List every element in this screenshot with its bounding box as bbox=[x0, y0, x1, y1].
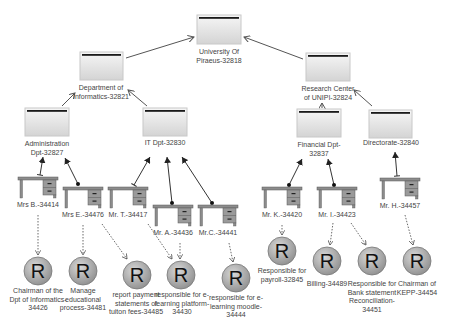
role-icon[interactable]: R bbox=[313, 247, 341, 275]
role-icon[interactable]: R bbox=[24, 257, 52, 285]
role-icon[interactable]: R bbox=[268, 237, 296, 265]
unit-label-directorate: Directorate-32840 bbox=[351, 139, 431, 148]
person-label-mr-t: Mr. T.-34417 bbox=[92, 211, 164, 220]
role-icon[interactable]: R bbox=[69, 257, 97, 285]
desk-icon[interactable] bbox=[18, 177, 58, 198]
svg-text:R: R bbox=[31, 260, 45, 282]
unit-directorate[interactable] bbox=[369, 110, 412, 138]
svg-text:R: R bbox=[229, 267, 243, 289]
svg-text:R: R bbox=[365, 250, 379, 272]
unit-label-dept-informatics: Department of Informatics-32821 bbox=[61, 84, 141, 101]
unit-label-it-dpt: IT Dpt-32830 bbox=[125, 139, 205, 148]
person-label-mr-h: Mr. H.-34457 bbox=[364, 202, 436, 211]
role-label-chairman-kepp: Chairman of KEPP-34454 bbox=[389, 280, 445, 297]
svg-text:R: R bbox=[130, 264, 144, 286]
unit-it-dpt[interactable] bbox=[143, 108, 187, 136]
svg-text:R: R bbox=[76, 260, 90, 282]
svg-text:R: R bbox=[174, 264, 188, 286]
person-label-mrs-b: Mrs B.-34414 bbox=[2, 201, 74, 210]
role-icon[interactable]: R bbox=[123, 261, 151, 289]
role-icon[interactable]: R bbox=[222, 264, 250, 292]
role-label-elearning-moodle: responsible for e- learning moodle- 3444… bbox=[202, 294, 270, 320]
svg-text:R: R bbox=[275, 240, 289, 262]
unit-dept-informatics[interactable] bbox=[80, 52, 123, 80]
unit-research-center[interactable] bbox=[306, 53, 350, 81]
role-icon[interactable]: R bbox=[167, 261, 195, 289]
unit-label-research-center: Research Center of UNIPI-32824 bbox=[288, 85, 368, 102]
svg-text:R: R bbox=[320, 250, 334, 272]
desk-icon[interactable] bbox=[198, 205, 238, 226]
unit-financial[interactable] bbox=[297, 109, 341, 137]
person-label-mr-c: Mr.C.-34441 bbox=[182, 229, 254, 238]
role-icon[interactable]: R bbox=[403, 247, 431, 275]
desk-icon[interactable] bbox=[108, 187, 148, 208]
unit-label-financial: Financial Dpt- 32837 bbox=[279, 141, 359, 158]
unit-label-administration: Administration Dpt-32827 bbox=[7, 140, 87, 157]
svg-text:R: R bbox=[410, 250, 424, 272]
unit-administration[interactable] bbox=[25, 108, 69, 136]
desk-icon[interactable] bbox=[262, 187, 302, 208]
unit-label-university: University Of Piraeus-32818 bbox=[179, 48, 259, 65]
unit-university[interactable] bbox=[197, 15, 241, 44]
desk-icon[interactable] bbox=[317, 187, 357, 208]
role-icon[interactable]: R bbox=[358, 247, 386, 275]
person-label-mr-i: Mr. I.-34423 bbox=[301, 211, 373, 220]
desk-icon[interactable] bbox=[380, 178, 420, 199]
